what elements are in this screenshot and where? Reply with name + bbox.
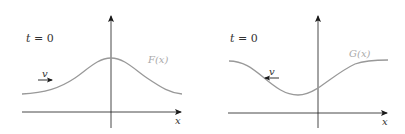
right-function-label: G(x) xyxy=(349,48,371,59)
left-function-label: F(x) xyxy=(147,54,168,65)
left-x-axis-label: x xyxy=(175,115,181,126)
left-time-label: t = 0 xyxy=(26,32,54,45)
right-panel: t = 0 G(x) x v xyxy=(228,16,388,128)
wave-diagram: t = 0 F(x) x v t = 0 G(x) x v xyxy=(0,0,405,134)
left-panel: t = 0 F(x) x v xyxy=(22,16,182,128)
right-x-axis-label: x xyxy=(382,116,388,127)
left-velocity-label: v xyxy=(42,68,48,79)
right-time-label: t = 0 xyxy=(230,32,258,45)
right-curve-G xyxy=(229,60,388,95)
right-velocity-label: v xyxy=(269,66,275,77)
